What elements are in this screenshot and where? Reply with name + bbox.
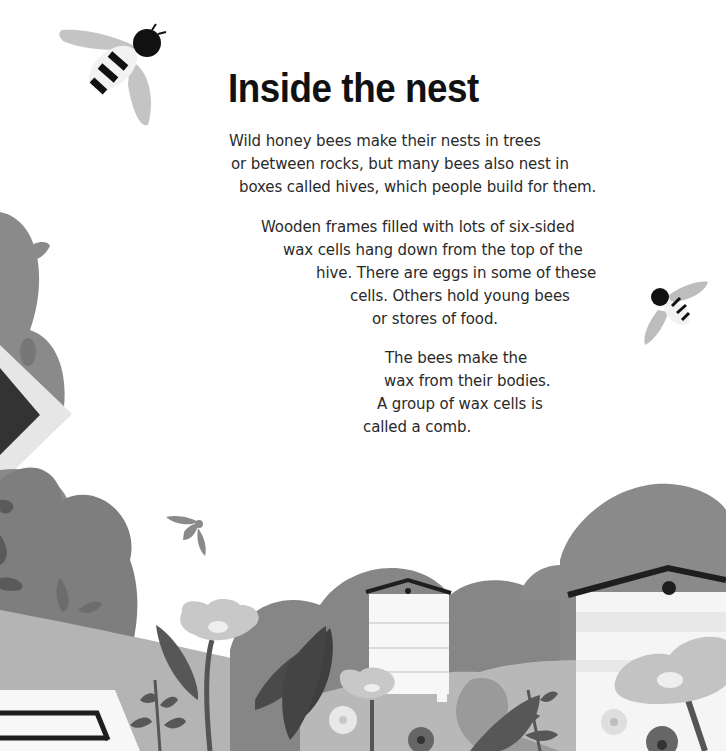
bee-large-icon <box>59 24 166 125</box>
text-line: hive. There are eggs in some of these <box>316 263 596 283</box>
text-line: Wooden frames filled with lots of six-si… <box>261 217 575 237</box>
text-line: A group of wax cells is <box>377 394 543 414</box>
text-line: wax from their bodies. <box>384 371 551 391</box>
text-line: or stores of food. <box>372 309 498 329</box>
text-line: Wild honey bees make their nests in tree… <box>229 131 541 151</box>
bee-silhouette-icon <box>166 516 206 556</box>
bee-small-icon <box>644 282 708 345</box>
text-line: wax cells hang down from the top of the <box>283 240 583 260</box>
text-line: The bees make the <box>385 348 527 368</box>
text-line: called a comb. <box>363 417 471 437</box>
text-line: cells. Others hold young bees <box>350 286 570 306</box>
text-line: boxes called hives, which people build f… <box>239 177 596 197</box>
page-title: Inside the nest <box>228 62 479 114</box>
text-line: or between rocks, but many bees also nes… <box>231 154 569 174</box>
